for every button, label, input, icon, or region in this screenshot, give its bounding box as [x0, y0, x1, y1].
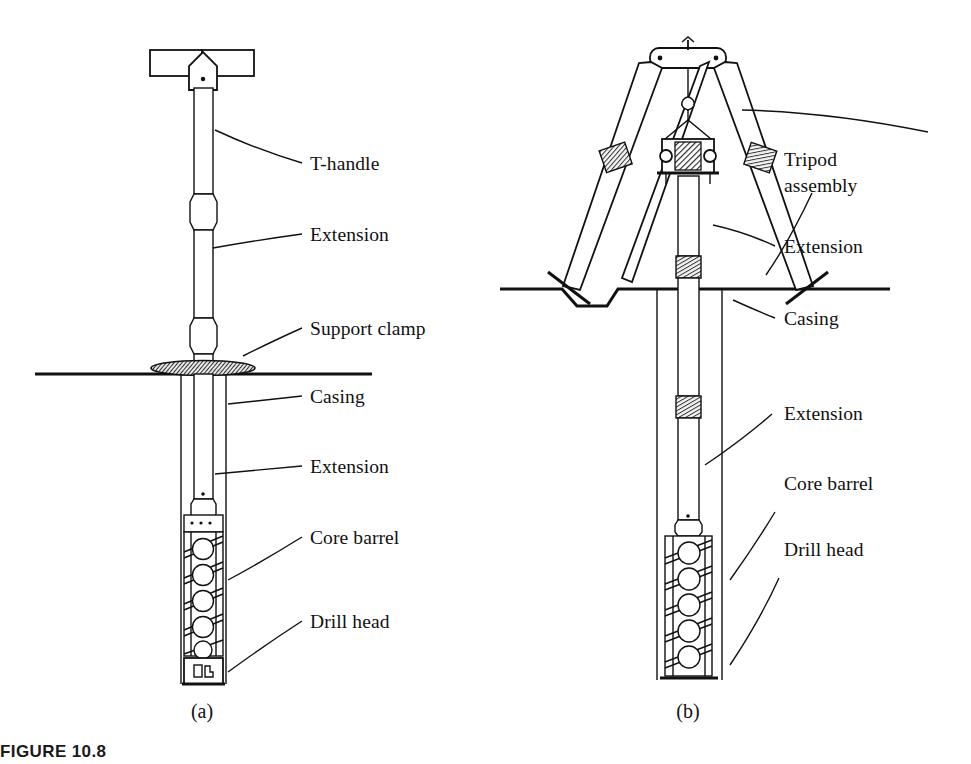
leader-t-handle — [215, 130, 302, 163]
drill-head-a — [182, 658, 225, 684]
leader-drill-head-b — [730, 578, 779, 665]
technical-diagram: T-handle Extension Support clamp Casing … — [0, 0, 971, 764]
extension-rod-lower-b — [675, 278, 702, 536]
panel-label-b: (b) — [676, 700, 699, 723]
leader-extension-top-b — [713, 225, 775, 246]
barrel-dot-1a — [190, 521, 193, 524]
core-barrel-collar-a — [184, 515, 223, 532]
leader-drill-head — [228, 621, 302, 672]
t-handle-group-a — [150, 50, 254, 90]
extension-rod-lower-a — [191, 374, 216, 519]
rod-pin-a — [201, 492, 205, 496]
rod-pin-b — [686, 514, 690, 518]
label-support-clamp-a: Support clamp — [310, 318, 426, 339]
label-drill-head-a: Drill head — [310, 611, 390, 632]
rod-collar-1a — [190, 194, 217, 230]
core-samples-b — [678, 542, 700, 668]
hoist-swivel — [682, 97, 694, 110]
tripod-leg-left — [563, 62, 662, 290]
barrel-dot-2a — [199, 521, 202, 524]
support-clamp-plate — [151, 361, 255, 376]
leader-casing — [228, 396, 302, 404]
rod-segment-1a — [194, 88, 213, 194]
core-barrel-head-a — [184, 515, 223, 532]
t-handle-pin — [201, 77, 205, 81]
support-clamp-a — [151, 361, 255, 376]
hammer-roller-right — [704, 150, 716, 162]
label-tripod-line1-b: Tripod — [784, 149, 837, 170]
extension-rod-upper-b — [676, 176, 701, 278]
label-extension-low-a: Extension — [310, 456, 389, 477]
label-extension-low-b: Extension — [784, 403, 863, 424]
rod-segment-1b — [678, 176, 699, 256]
drill-head-body-a — [184, 658, 223, 684]
leader-extension-top — [213, 234, 302, 248]
rod-coupling-2b — [676, 396, 701, 418]
leader-support-clamp — [243, 328, 302, 356]
rod-coupling-1b — [676, 256, 701, 278]
rod-segment-3b — [678, 418, 699, 520]
leader-tripod-top — [742, 110, 928, 132]
hammer-core — [675, 142, 701, 170]
rod-segment-2a — [194, 230, 213, 318]
label-casing-a: Casing — [310, 386, 365, 407]
leader-core-barrel-b — [730, 512, 775, 580]
leader-core-barrel — [228, 537, 302, 580]
panel-label-a: (a) — [191, 700, 213, 723]
rod-collar-3b — [675, 520, 702, 536]
core-barrel-a — [184, 532, 223, 659]
label-drill-head-b: Drill head — [784, 539, 864, 560]
label-core-barrel-b: Core barrel — [784, 473, 874, 494]
leader-casing-b — [733, 300, 775, 318]
label-extension-top-a: Extension — [310, 224, 389, 245]
figure-caption: FIGURE 10.8 — [0, 742, 106, 762]
hammer-roller-left — [660, 150, 672, 162]
label-core-barrel-a: Core barrel — [310, 527, 400, 548]
rod-segment-2b — [678, 278, 699, 396]
tripod-plate-bolt-right — [714, 56, 719, 61]
tripod-apex-b — [650, 37, 726, 68]
leader-extension-low — [215, 466, 302, 474]
figure-root: T-handle Extension Support clamp Casing … — [0, 0, 971, 764]
label-t-handle-a: T-handle — [310, 153, 379, 174]
panel-a-drawing: T-handle Extension Support clamp Casing … — [35, 50, 426, 723]
label-extension-top-b: Extension — [784, 236, 863, 257]
barrel-dot-3a — [208, 521, 211, 524]
label-tripod-line2-b: assembly — [784, 175, 858, 196]
core-barrel-b — [665, 536, 712, 676]
rod-segment-4a — [194, 374, 213, 499]
rod-collar-2a — [190, 318, 217, 354]
leader-extension-low-b — [705, 414, 772, 465]
tripod-plate-bolt-left — [658, 56, 663, 61]
panel-b-drawing: Tripod assembly Extension Casing Extensi… — [500, 37, 928, 723]
extension-rod-upper-a — [190, 88, 217, 372]
label-casing-b: Casing — [784, 308, 839, 329]
